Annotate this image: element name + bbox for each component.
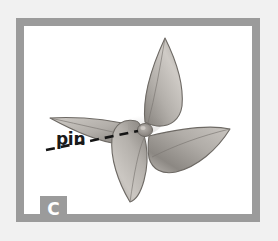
pin-callout-label: pin: [56, 131, 85, 148]
illustration-frame: [16, 18, 260, 222]
panel-letter-text: C: [47, 201, 59, 218]
panel-letter-badge: C: [40, 196, 67, 222]
figure-panel: pin C: [0, 0, 278, 241]
drawing-paper: [24, 26, 252, 214]
